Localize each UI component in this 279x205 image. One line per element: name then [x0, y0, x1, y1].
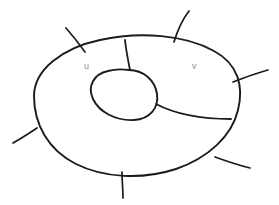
diagram-canvas: u v — [0, 0, 279, 205]
chord-hole-to-right-edge — [156, 104, 231, 119]
diagram-svg — [0, 0, 279, 205]
region-label-v: v — [192, 62, 197, 71]
region-label-u: u — [84, 62, 89, 71]
whisker-top-right — [174, 11, 189, 42]
inner-hole-boundary — [91, 69, 157, 120]
whisker-right — [233, 70, 268, 82]
whisker-bottom — [122, 172, 123, 198]
outer-blob-boundary — [34, 35, 240, 176]
chord-top-to-hole — [125, 40, 130, 70]
whisker-bottom-right — [215, 157, 250, 168]
whisker-left — [13, 128, 37, 143]
